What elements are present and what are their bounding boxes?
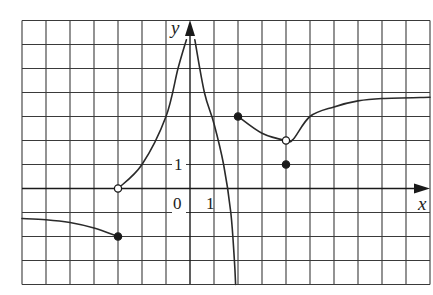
falling-branch-from-asymptote (195, 40, 236, 285)
grid-lines (22, 21, 430, 285)
x-axis-arrow-icon (414, 184, 430, 194)
y-axis-label: y (169, 17, 180, 38)
open-point-icon (282, 137, 289, 144)
x-axis (22, 184, 430, 194)
curves (22, 40, 430, 285)
endpoint-markers (114, 113, 289, 240)
origin-label: 0 (173, 194, 182, 213)
y-axis-arrow-icon (185, 20, 195, 36)
x-tick-label: 1 (206, 194, 215, 213)
open-point-icon (114, 185, 121, 192)
y-axis (185, 20, 195, 284)
closed-point-icon (234, 113, 241, 120)
labels: 1 0 1 y x (169, 17, 427, 214)
closed-point-icon (282, 161, 289, 168)
function-graph: 1 0 1 y x (0, 0, 433, 295)
y-tick-label: 1 (174, 155, 183, 174)
x-axis-label: x (417, 193, 427, 214)
closed-point-icon (114, 233, 121, 240)
